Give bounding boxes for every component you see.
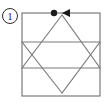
label-number-text: 1 <box>7 10 13 22</box>
figure-container: 1 <box>0 0 108 106</box>
start-marker-dot <box>51 10 57 16</box>
square-frame <box>22 13 100 96</box>
step-number-label: 1 <box>3 9 18 24</box>
figure-diagram: 1 <box>0 0 108 106</box>
